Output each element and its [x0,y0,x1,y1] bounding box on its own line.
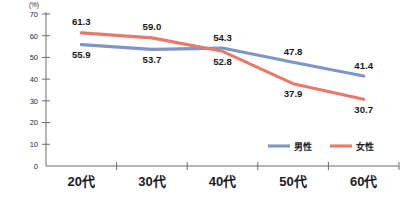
legend-label-male: 男性 [294,141,312,152]
data-label: 55.9 [72,49,91,60]
chart-canvas: 010203040506070(%) 20代30代40代50代60代 55.95… [0,0,411,200]
data-label: 30.7 [354,104,373,115]
y-axis-tick-label: 60 [30,32,38,41]
y-axis-tick-label: 20 [30,118,38,127]
data-label: 54.3 [213,32,232,43]
data-label: 53.7 [143,54,162,65]
x-axis-tick-label: 30代 [138,174,165,189]
chart-legend: 男性女性 [268,141,374,152]
x-axis: 20代30代40代50代60代 [46,162,399,189]
data-label: 59.0 [143,21,162,32]
line-chart: 010203040506070(%) 20代30代40代50代60代 55.95… [0,0,411,200]
data-label: 41.4 [354,60,373,71]
y-axis: 010203040506070(%) [29,1,50,171]
data-label: 47.8 [284,46,303,57]
y-axis-tick-label: 0 [34,162,38,171]
x-axis-tick-label: 20代 [68,174,95,189]
y-axis-tick-label: 50 [30,53,38,62]
data-label: 52.8 [213,56,232,67]
data-point-labels: 55.953.754.347.841.461.359.052.837.930.7 [72,16,374,114]
y-axis-unit-label: (%) [29,1,39,9]
y-axis-tick-label: 30 [30,97,38,106]
data-label: 61.3 [72,16,91,27]
legend-label-female: 女性 [356,141,374,152]
y-axis-tick-label: 10 [30,140,38,149]
x-axis-tick-label: 40代 [209,174,236,189]
y-axis-tick-label: 70 [30,10,38,19]
y-axis-tick-label: 40 [30,75,38,84]
data-label: 37.9 [284,88,303,99]
x-axis-tick-label: 60代 [350,174,377,189]
x-axis-tick-label: 50代 [279,174,306,189]
